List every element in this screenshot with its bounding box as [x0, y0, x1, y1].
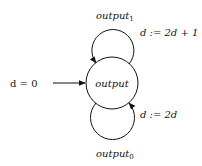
state-label: output [95, 78, 129, 89]
loop-arrow-icon [92, 30, 134, 64]
state-diagram: d = 0 output output1 d := 2d + 1 d := 2d… [0, 0, 202, 166]
loop-arrow-icon [91, 103, 135, 140]
self-loop-top: output1 d := 2d + 1 [92, 10, 198, 64]
bottom-output-label: output0 [96, 148, 134, 161]
bottom-action-label: d := 2d [140, 109, 177, 120]
self-loop-bottom: d := 2d output0 [91, 103, 178, 161]
initial-label: d = 0 [10, 78, 38, 89]
state-output[interactable]: output [86, 57, 138, 109]
top-output-label: output1 [96, 10, 134, 23]
initial-transition: d = 0 [10, 78, 85, 89]
top-action-label: d := 2d + 1 [140, 27, 198, 38]
